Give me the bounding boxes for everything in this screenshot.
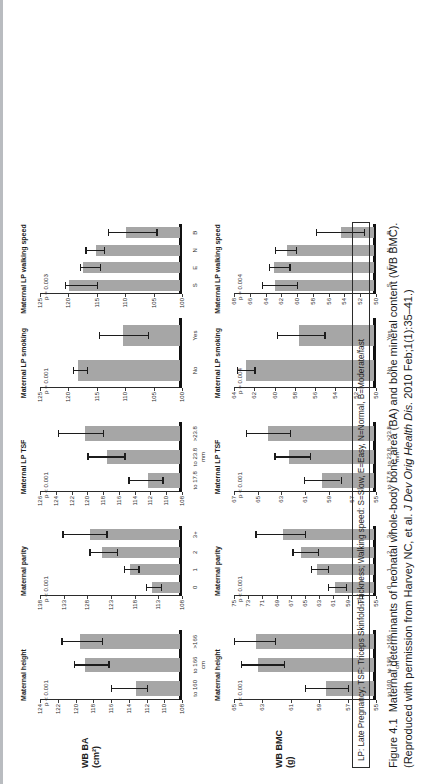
y-axis-tick-label: 123 <box>108 600 114 610</box>
figure-caption: Figure 4.1 Maternal determinants of neon… <box>386 220 416 768</box>
x-axis-category-label: 3+ <box>192 531 198 538</box>
error-bar-cap <box>255 531 256 538</box>
y-axis-tick-label: 67 <box>288 600 294 607</box>
y-axis-tick-label: 110 <box>161 704 167 714</box>
y-axis-tick <box>248 596 249 599</box>
error-bar <box>328 587 346 588</box>
y-axis-tick-label: 125 <box>37 298 43 308</box>
x-axis-category-label: Yes <box>192 331 198 341</box>
y-axis-tick-label: 58 <box>292 392 298 399</box>
y-axis-tick <box>154 294 155 297</box>
y-axis-tick <box>40 492 41 495</box>
error-bar-cap <box>156 229 157 236</box>
y-axis-tick-label: 54 <box>332 392 338 399</box>
error-bar-cap <box>73 367 74 374</box>
x-axis-category-label: N <box>192 248 198 252</box>
error-bar-cap <box>275 638 276 645</box>
panel-title: Maternal LP walking speed <box>20 222 28 316</box>
y-axis-tick-label: 114 <box>132 496 138 506</box>
y-axis-tick <box>68 294 69 297</box>
row-label-line1: WB BMC <box>274 724 285 768</box>
y-axis-tick <box>64 596 65 599</box>
error-bar-cap <box>274 454 275 461</box>
y-axis-tick <box>182 596 183 599</box>
error-bar <box>89 552 116 553</box>
x-axis-unit-label: cm <box>200 661 206 669</box>
y-axis-tick <box>111 700 112 703</box>
y-axis-tick <box>40 294 41 297</box>
error-bar-cap <box>316 229 317 236</box>
error-bar <box>311 569 328 570</box>
y-axis-tick <box>333 596 334 599</box>
panel-wb-bmc-maternal-parity: Maternal parityp < 0.0017573716967656361… <box>214 524 400 618</box>
y-axis-tick <box>329 294 330 297</box>
y-axis-tick-label: 126 <box>37 496 43 506</box>
y-axis-tick-label: 50 <box>373 392 379 399</box>
error-bar <box>262 285 298 286</box>
y-axis-tick <box>103 492 104 495</box>
panel-wb-bmc-maternal-height: Maternal heightp < 0.001656361595755to 1… <box>214 628 400 722</box>
y-axis-tick <box>154 388 155 391</box>
error-bar <box>246 433 290 434</box>
x-axis-category-label: to 160 <box>192 680 198 697</box>
chart-bar <box>96 245 180 256</box>
y-axis-tick-label: 110 <box>122 298 128 308</box>
error-bar-cap <box>102 638 103 645</box>
y-axis-tick <box>348 700 349 703</box>
y-axis-tick-label: 61 <box>288 704 294 711</box>
plot-area: 126124122120118116114112110108to 17.8to … <box>40 422 182 492</box>
y-axis-tick-label: 55 <box>373 704 379 711</box>
error-bar-cap <box>241 662 242 669</box>
figure-number: Figure 4.1 <box>387 718 399 768</box>
y-axis-tick-label: 108 <box>179 496 185 506</box>
error-bar-cap <box>99 332 100 339</box>
error-bar <box>304 480 341 481</box>
y-axis-tick <box>76 700 77 703</box>
y-axis-tick-label: 128 <box>84 600 90 610</box>
y-axis-tick <box>234 294 235 297</box>
x-axis-category-label: >166 <box>192 635 198 649</box>
x-axis-category-label: 0 <box>192 586 198 589</box>
figure-page: WB BA (cm²) Maternal heightp < 0.0011241… <box>0 0 424 784</box>
y-axis-tick-label: 66 <box>247 298 253 305</box>
y-axis <box>40 387 182 388</box>
y-axis-tick <box>319 700 320 703</box>
y-axis-tick-label: 56 <box>312 392 318 399</box>
y-axis-tick <box>329 492 330 495</box>
y-axis-tick-label: 112 <box>147 496 153 506</box>
y-axis-tick <box>305 492 306 495</box>
y-axis-tick-label: 138 <box>37 600 43 610</box>
error-bar-cap <box>269 264 270 271</box>
y-axis-tick <box>125 294 126 297</box>
x-axis-category-label: to 23.8 <box>192 448 198 466</box>
error-bar-cap <box>304 477 305 484</box>
y-axis-tick-label: 63 <box>316 600 322 607</box>
error-bar-cap <box>124 454 125 461</box>
y-axis-tick-label: 120 <box>65 298 71 308</box>
error-bar-cap <box>106 531 107 538</box>
y-axis-tick-label: 122 <box>55 704 61 714</box>
error-bar-cap <box>324 332 325 339</box>
error-bar-cap <box>290 430 291 437</box>
panel-title: Maternal LP TSF <box>20 420 28 514</box>
row-axis-label-wb-ba: WB BA (cm²) <box>80 724 102 768</box>
x-axis-category-label: to 166 <box>192 657 198 674</box>
y-axis-tick <box>166 492 167 495</box>
caption-text-2: 2010 Feb;1(1):35–41.) <box>402 289 414 402</box>
panel-title: Maternal LP walking speed <box>214 222 222 316</box>
panel-wb-bmc-maternal-lp-walking-speed: Maternal LP walking speedp = 0.004686664… <box>214 222 400 316</box>
y-axis-tick-label: 63 <box>278 496 284 503</box>
panel-wb-ba-maternal-height: Maternal heightp < 0.0011241221201181161… <box>20 628 206 722</box>
error-bar-cap <box>138 566 139 573</box>
error-bar <box>99 335 148 336</box>
y-axis-tick <box>376 700 377 703</box>
panel-title: Maternal LP smoking <box>214 316 222 410</box>
y-axis-tick-label: 118 <box>90 704 96 714</box>
y-axis-tick-label: 60 <box>294 298 300 305</box>
error-bar-cap <box>161 584 162 591</box>
error-bar <box>128 480 162 481</box>
error-bar <box>58 433 103 434</box>
y-axis-tick-label: 122 <box>69 496 75 506</box>
y-axis-tick-label: 105 <box>151 392 157 402</box>
error-bar-cap <box>148 332 149 339</box>
